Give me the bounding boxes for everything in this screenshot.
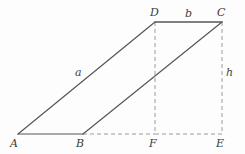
vertex-label-A: A <box>10 138 18 149</box>
measure-label-h: h <box>226 67 233 78</box>
vertex-label-F: F <box>149 138 157 149</box>
figure-canvas <box>0 0 245 154</box>
measure-label-b: b <box>185 8 192 19</box>
vertex-label-C: C <box>217 7 225 18</box>
measure-label-a: a <box>75 67 82 78</box>
edge-BC-solid <box>83 22 222 134</box>
vertex-label-B: B <box>76 138 84 149</box>
vertex-label-E: E <box>216 138 224 149</box>
vertex-label-D: D <box>150 7 159 18</box>
edge-AD-solid <box>18 22 155 134</box>
geometry-figure: A B F E D C a b h <box>0 0 245 154</box>
